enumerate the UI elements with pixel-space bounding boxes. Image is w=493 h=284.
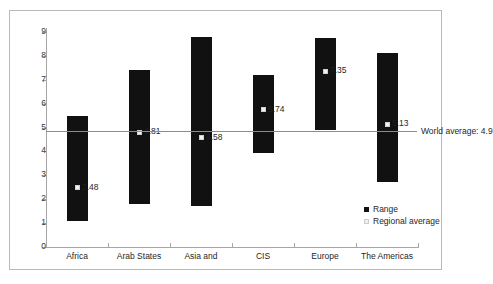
y-axis-tick-label: 8 [20, 56, 46, 57]
regional-average-marker [199, 135, 204, 140]
y-axis-tick-value: 1 [32, 218, 46, 227]
category-label: The Americas [356, 252, 418, 261]
regional-average-value-label: 4.58 [206, 133, 223, 142]
y-axis-tick-value: 2 [32, 194, 46, 203]
chart-legend: Range Regional average [364, 203, 440, 228]
range-bar [129, 70, 150, 205]
regional-average-marker [75, 185, 80, 190]
y-axis-tick-label: 1 [20, 223, 46, 224]
world-average-line [46, 131, 417, 132]
regional-average-value-label: 5.74 [268, 105, 285, 114]
y-axis-tick-value: 3 [32, 170, 46, 179]
y-axis-tick-value: 6 [32, 99, 46, 108]
legend-swatch-regional-average-icon [364, 219, 369, 224]
y-axis-tick-value: 8 [32, 51, 46, 60]
x-axis-tick [108, 243, 109, 248]
x-axis-tick [294, 243, 295, 248]
x-axis-tick [46, 243, 47, 248]
x-axis-tick [170, 243, 171, 248]
y-axis-tick-value: 0 [32, 242, 46, 251]
y-axis-tick-value: 7 [32, 75, 46, 84]
y-axis-tick-label: 4 [20, 151, 46, 152]
y-axis-tick-label: 2 [20, 199, 46, 200]
legend-label-range: Range [373, 203, 398, 215]
legend-label-regional-average: Regional average [373, 215, 440, 227]
y-axis-tick-value: 9 [32, 27, 46, 36]
x-axis-tick [356, 243, 357, 248]
legend-swatch-range-icon [364, 207, 369, 212]
range-bar [315, 38, 336, 130]
category-label: Arab States [108, 252, 170, 261]
category-label: Africa [46, 252, 108, 261]
y-axis-tick-label: 6 [20, 104, 46, 105]
y-axis-tick-label: 0 [20, 247, 46, 248]
regional-average-marker [261, 107, 266, 112]
range-bar [253, 75, 274, 152]
legend-item-range: Range [364, 203, 440, 215]
y-axis-tick-label: 5 [20, 128, 46, 129]
x-axis-tick [232, 243, 233, 248]
y-axis-tick-value: 4 [32, 146, 46, 155]
regional-average-marker [323, 69, 328, 74]
category-label: Asia and [170, 252, 232, 261]
y-axis-tick-value: 5 [32, 123, 46, 132]
legend-item-regional-average: Regional average [364, 215, 440, 227]
category-label: CIS [232, 252, 294, 261]
range-bar [191, 37, 212, 207]
y-axis-tick-label: 9 [20, 32, 46, 33]
regional-average-value-label: 2.48 [82, 183, 99, 192]
regional-average-value-label: 5.13 [392, 119, 409, 128]
y-axis-tick-label: 3 [20, 175, 46, 176]
regional-average-value-label: 7.35 [330, 66, 347, 75]
regional-average-marker [385, 122, 390, 127]
world-average-label: World average: 4.9 [421, 127, 493, 136]
x-axis-tick [418, 243, 419, 248]
y-axis-line [46, 28, 47, 248]
y-axis-tick-label: 7 [20, 80, 46, 81]
category-label: Europe [294, 252, 356, 261]
